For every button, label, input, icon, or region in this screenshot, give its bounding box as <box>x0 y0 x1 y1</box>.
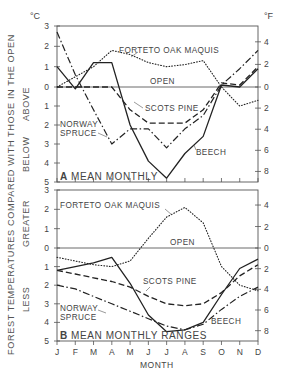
y-tick-celsius: 3 <box>44 299 49 309</box>
y-tick-celsius: 0 <box>44 82 49 92</box>
y-tick-fahrenheit: 4 <box>264 37 269 47</box>
x-tick-month: F <box>73 347 78 357</box>
x-tick-month: N <box>237 347 243 357</box>
panel-b-less-label: LESS <box>21 287 31 312</box>
y-tick-celsius: 4 <box>44 158 49 168</box>
y-tick-celsius: 1 <box>44 262 49 272</box>
y-tick-fahrenheit: 2 <box>264 222 269 232</box>
label-forteto-b: FORTETO OAK MAQUIS <box>60 201 160 210</box>
unit-fahrenheit-label: °F <box>264 11 274 21</box>
panel-b-greater-label: GREATER <box>21 200 31 247</box>
x-tick-month: J <box>55 347 59 357</box>
x-tick-month: O <box>218 347 225 357</box>
panel-a-above-label: ABOVE <box>21 87 31 121</box>
x-tick-month: A <box>109 347 115 357</box>
y-tick-fahrenheit: 2 <box>264 264 269 274</box>
y-axis-title: FOREST TEMPERATURES COMPARED WITH THOSE … <box>6 34 16 355</box>
temperature-comparison-chart: 3210123454202468 3210123454202468 JFMAMJ… <box>0 0 286 380</box>
y-tick-fahrenheit: 4 <box>264 124 269 134</box>
unit-celsius-label: °C <box>30 11 41 21</box>
y-tick-fahrenheit: 0 <box>264 82 269 92</box>
panel-a-label: MEAN MONTHLY <box>71 171 158 182</box>
series-scots-pine <box>57 67 258 123</box>
label-open-a: OPEN <box>150 77 175 86</box>
label-norway-b-2: SPRUCE <box>60 313 97 322</box>
x-tick-month: J <box>146 347 150 357</box>
y-tick-celsius: 1 <box>44 224 49 234</box>
y-tick-celsius: 3 <box>44 185 49 195</box>
panel-a-below-label: BELOW <box>21 136 31 172</box>
label-forteto-a: FORTETO OAK MAQUIS <box>119 46 219 55</box>
x-tick-month: D <box>255 347 261 357</box>
x-axis-title: MONTH <box>140 360 174 370</box>
y-tick-celsius: 3 <box>44 21 49 31</box>
label-open-b: OPEN <box>170 238 195 247</box>
label-norway-b-1: NORWAY <box>60 304 98 313</box>
label-norway-a-1: NORWAY <box>60 120 98 129</box>
x-tick-month: S <box>200 347 206 357</box>
y-tick-celsius: 4 <box>44 317 49 327</box>
y-tick-fahrenheit: 2 <box>264 103 269 113</box>
y-tick-celsius: 0 <box>44 243 49 253</box>
label-scots-a: SCOTS PINE <box>145 104 199 113</box>
panel-b-label-letter: B <box>60 330 67 341</box>
x-tick-month: M <box>90 347 97 357</box>
y-tick-celsius: 5 <box>44 336 49 346</box>
y-tick-fahrenheit: 0 <box>264 243 269 253</box>
y-tick-fahrenheit: 8 <box>264 326 269 336</box>
panel-a-label-letter: A <box>60 171 67 182</box>
y-tick-celsius: 2 <box>44 41 49 51</box>
y-tick-fahrenheit: 6 <box>264 145 269 155</box>
y-tick-celsius: 1 <box>44 62 49 72</box>
y-tick-celsius: 2 <box>44 280 49 290</box>
x-tick-month: J <box>165 347 169 357</box>
y-tick-fahrenheit: 8 <box>264 166 269 176</box>
label-beech-a: BEECH <box>196 148 226 157</box>
panel-b-label: MEAN MONTHLY RANGES <box>71 330 207 341</box>
y-tick-celsius: 1 <box>44 101 49 111</box>
y-tick-celsius: 2 <box>44 204 49 214</box>
y-tick-fahrenheit: 4 <box>264 200 269 210</box>
x-tick-month: A <box>182 347 188 357</box>
label-scots-b: SCOTS PINE <box>143 277 197 286</box>
y-tick-fahrenheit: 2 <box>264 59 269 69</box>
x-tick-month: M <box>127 347 134 357</box>
y-tick-fahrenheit: 6 <box>264 305 269 315</box>
label-norway-a-2: SPRUCE <box>60 129 97 138</box>
y-tick-fahrenheit: 4 <box>264 284 269 294</box>
y-tick-celsius: 2 <box>44 120 49 130</box>
label-beech-b: BEECH <box>211 317 241 326</box>
y-tick-celsius: 3 <box>44 139 49 149</box>
